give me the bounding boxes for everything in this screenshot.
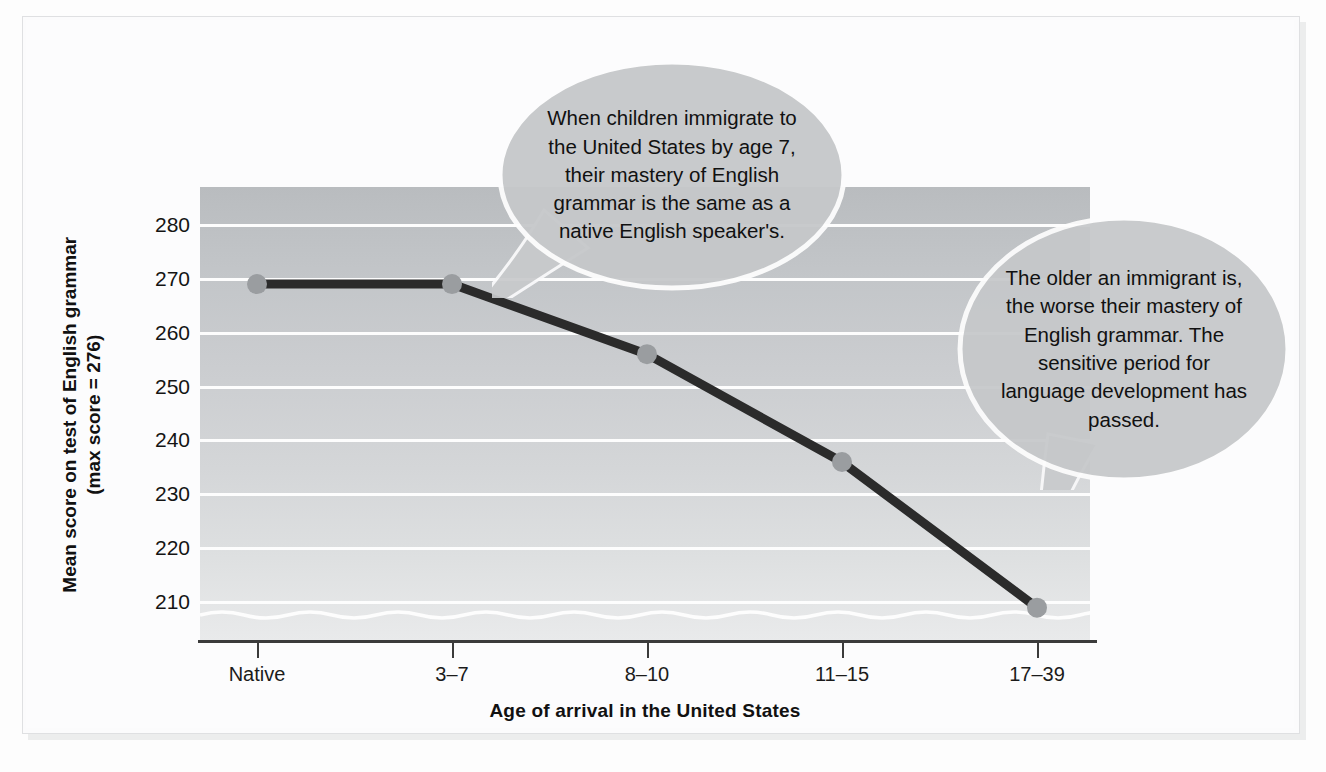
data-point-4	[1027, 598, 1047, 618]
figure-container: Native3–78–1011–1517–39 2802702602502402…	[0, 0, 1326, 772]
x-tick-label-4: 17–39	[1009, 663, 1065, 686]
y-tick-label-260: 260	[155, 321, 190, 345]
x-tick-label-0: Native	[229, 663, 286, 686]
x-axis-title: Age of arrival in the United States	[200, 700, 1090, 722]
data-markers	[247, 274, 1047, 618]
x-tick-label-1: 3–7	[435, 663, 468, 686]
data-point-2	[637, 344, 657, 364]
x-tick-2	[647, 643, 649, 658]
data-point-3	[832, 452, 852, 472]
x-tick-0	[257, 643, 259, 658]
data-point-1	[442, 274, 462, 294]
data-point-0	[247, 274, 267, 294]
callout-2-text: The older an immigrant is, the worse the…	[952, 208, 1296, 490]
y-tick-label-210: 210	[155, 590, 190, 614]
callout-1-text: When children immigrate to the United St…	[492, 52, 852, 298]
y-tick-label-240: 240	[155, 428, 190, 452]
y-axis-title-line2: (max score = 276)	[83, 335, 104, 495]
callout-bubble-1: When children immigrate to the United St…	[492, 52, 852, 298]
callout-bubble-2: The older an immigrant is, the worse the…	[952, 208, 1296, 490]
x-tick-4	[1037, 643, 1039, 658]
y-tick-label-220: 220	[155, 536, 190, 560]
x-tick-label-2: 8–10	[625, 663, 670, 686]
y-tick-label-230: 230	[155, 482, 190, 506]
y-tick-label-280: 280	[155, 213, 190, 237]
y-tick-label-270: 270	[155, 267, 190, 291]
x-tick-3	[842, 643, 844, 658]
x-tick-1	[452, 643, 454, 658]
y-tick-label-250: 250	[155, 375, 190, 399]
y-axis-title: Mean score on test of English grammar (m…	[62, 180, 102, 650]
y-axis-title-line1: Mean score on test of English grammar	[59, 237, 80, 593]
data-line	[257, 284, 1037, 608]
x-tick-label-3: 11–15	[815, 663, 869, 686]
